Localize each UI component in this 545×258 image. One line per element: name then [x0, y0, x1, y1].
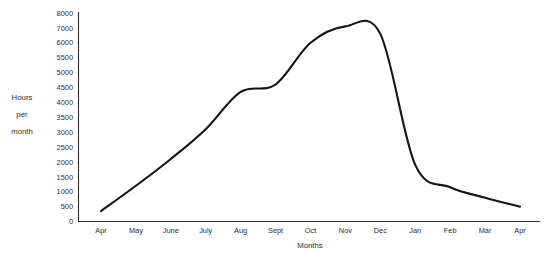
y-axis-title: Hours per month	[11, 93, 33, 136]
x-tick-label: Sept	[268, 226, 283, 235]
y-axis-title-line-3: month	[11, 127, 33, 136]
y-tick-label: 1000	[57, 187, 73, 196]
y-tick-label: 6000	[57, 38, 73, 47]
y-tick-label: 1500	[57, 173, 73, 182]
x-tick-label: Apr	[514, 226, 526, 235]
y-axis-tick-labels: 0500100015002000250030003500400045005000…	[57, 9, 73, 227]
x-axis-title: Months	[297, 241, 323, 250]
x-axis-tick-labels: AprMayJuneJulyAugSeptOctNovDecJanFebMarA…	[95, 226, 526, 235]
y-tick-label: 2500	[57, 143, 73, 152]
x-tick-label: Oct	[305, 226, 317, 235]
y-tick-label: 5000	[57, 68, 73, 77]
y-tick-label: 4500	[57, 83, 73, 92]
y-tick-label: 500	[61, 202, 73, 211]
y-axis-title-line-1: Hours	[12, 93, 33, 102]
y-tick-label: 0	[69, 217, 73, 226]
y-tick-label: 8000	[57, 9, 73, 18]
x-tick-label: Apr	[95, 226, 107, 235]
line-chart: 0500100015002000250030003500400045005000…	[0, 0, 545, 258]
x-tick-label: June	[163, 226, 179, 235]
x-tick-label: Aug	[234, 226, 247, 235]
y-axis-title-line-2: per	[16, 110, 28, 119]
x-tick-label: Nov	[339, 226, 352, 235]
x-tick-label: Dec	[374, 226, 387, 235]
x-tick-label: Mar	[479, 226, 492, 235]
y-tick-label: 7000	[57, 24, 73, 33]
x-tick-label: May	[129, 226, 143, 235]
chart-container: 0500100015002000250030003500400045005000…	[0, 0, 545, 258]
y-tick-label: 3500	[57, 113, 73, 122]
y-tick-label: 3000	[57, 128, 73, 137]
y-tick-label: 2000	[57, 158, 73, 167]
x-tick-label: Jan	[409, 226, 421, 235]
data-series-line	[101, 21, 520, 211]
y-tick-label: 4000	[57, 98, 73, 107]
y-tick-label: 5500	[57, 53, 73, 62]
x-tick-label: July	[199, 226, 212, 235]
x-tick-label: Feb	[444, 226, 457, 235]
